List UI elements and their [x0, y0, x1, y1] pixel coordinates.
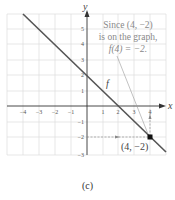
svg-text:−2: −2	[78, 134, 84, 140]
svg-text:−4: −4	[20, 109, 26, 115]
annotation: Since (4, −2) is on the graph, f(4) = −2…	[99, 20, 158, 55]
svg-text:1: 1	[81, 88, 84, 94]
svg-text:is on the graph,: is on the graph,	[99, 32, 158, 42]
function-graph: x y −4 −3 −2 −1 1 2 3 4 5 4 3 2 1 −1 −2 …	[0, 0, 175, 180]
svg-text:−3: −3	[36, 109, 42, 115]
svg-text:−3: −3	[78, 152, 84, 158]
guide-arrow-right-icon	[115, 136, 120, 139]
svg-text:−2: −2	[52, 109, 58, 115]
svg-text:3: 3	[81, 57, 84, 63]
svg-text:−1: −1	[78, 119, 84, 125]
svg-text:Since (4, −2): Since (4, −2)	[103, 20, 152, 31]
svg-text:2: 2	[117, 109, 120, 115]
point-marker	[148, 135, 153, 140]
svg-text:3: 3	[133, 109, 136, 115]
svg-text:f(4) = −2.: f(4) = −2.	[109, 44, 147, 55]
x-axis-arrow-icon	[159, 104, 166, 109]
point-label: (4, −2)	[121, 141, 148, 153]
y-axis-label: y	[82, 1, 88, 12]
svg-text:4: 4	[81, 41, 84, 47]
svg-text:−1: −1	[68, 109, 74, 115]
svg-text:5: 5	[81, 26, 84, 32]
svg-text:1: 1	[102, 109, 105, 115]
figure-caption: (c)	[0, 180, 175, 191]
function-label: f	[106, 78, 110, 89]
x-tick-labels: −4 −3 −2 −1 1 2 3 4	[20, 109, 152, 115]
y-tick-labels: 5 4 3 2 1 −1 −2 −3	[78, 26, 84, 158]
x-axis-label: x	[167, 100, 173, 111]
